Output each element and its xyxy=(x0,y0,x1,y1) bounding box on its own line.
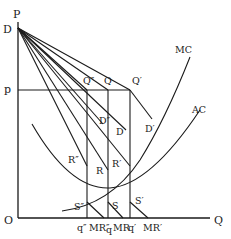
price-axis-label: P xyxy=(13,8,21,21)
point-r-label: R xyxy=(96,165,104,176)
point-s-label: S xyxy=(112,200,119,211)
diagram-canvas: P D p O Q Q″ Q Q′ D″ D D′ R″ R R′ S″ S S… xyxy=(0,0,231,239)
point-s-prime-label: S′ xyxy=(135,195,144,206)
demand-curve-d-prime-lower xyxy=(130,90,152,119)
ac-label: AC xyxy=(191,104,206,115)
point-q-label: Q xyxy=(104,75,112,86)
point-q-prime-label: Q′ xyxy=(132,75,142,86)
point-q-double-prime-label: Q″ xyxy=(83,75,95,86)
point-s-double-prime-label: S″ xyxy=(74,201,85,212)
price-level-label: p xyxy=(4,83,11,96)
demand-ray-q xyxy=(18,28,108,90)
demand-d-label: D xyxy=(116,126,124,137)
mr-line-r-double-prime xyxy=(18,28,87,166)
point-r-prime-label: R′ xyxy=(112,158,121,169)
mr-segment-double-prime xyxy=(87,202,104,218)
demand-intercept-label: D xyxy=(3,23,12,36)
quantity-axis-label: Q xyxy=(214,214,223,227)
tick-q-prime: q′ xyxy=(128,222,136,233)
point-r-double-prime-label: R″ xyxy=(68,154,79,165)
tick-q-double-prime: q″ xyxy=(77,222,87,233)
mc-label: MC xyxy=(175,44,192,55)
demand-ray-q-double-prime xyxy=(18,28,87,90)
tick-mr-prime: MR′ xyxy=(143,222,162,233)
mr-line-r xyxy=(18,28,108,170)
demand-d-double-prime-label: D″ xyxy=(99,115,111,126)
tick-q: q xyxy=(106,224,112,235)
demand-d-prime-label: D′ xyxy=(145,123,155,134)
mr-line-r-prime xyxy=(18,28,130,166)
mc-curve xyxy=(62,57,190,211)
origin-label: O xyxy=(4,214,13,227)
